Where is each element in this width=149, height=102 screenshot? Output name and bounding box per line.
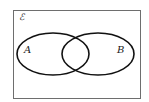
venn-diagram: ℰ A B <box>0 0 149 102</box>
universal-set-label: ℰ <box>19 12 26 22</box>
set-b-label: B <box>116 44 124 55</box>
set-a-label: A <box>23 44 31 55</box>
